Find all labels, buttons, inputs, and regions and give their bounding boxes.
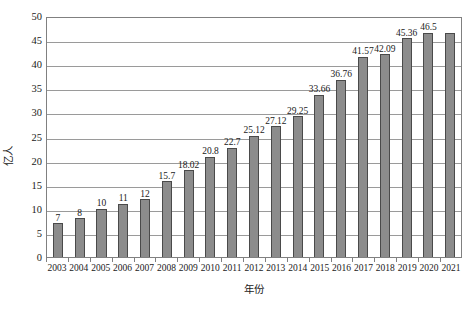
x-axis-tick-label: 2020 — [418, 263, 440, 279]
x-axis-tick — [287, 258, 288, 262]
x-axis-tick-label: 2007 — [134, 263, 156, 279]
x-axis-tick-label: 2019 — [396, 263, 418, 279]
bar-slot: 42.09 — [374, 18, 396, 257]
bar[interactable]: 22.7 — [227, 148, 237, 257]
x-tick-slot — [331, 258, 353, 262]
bar-value-label: 18.02 — [178, 161, 199, 171]
bar[interactable]: 41.57 — [358, 57, 368, 257]
bar[interactable]: 8 — [75, 218, 85, 257]
bar[interactable]: 27.12 — [271, 126, 281, 257]
bar-value-label: 41.57 — [352, 47, 373, 57]
bar-value-label: 46.5 — [420, 23, 437, 33]
bar-slot: 20.8 — [200, 18, 222, 257]
bar-slot: 36.76 — [330, 18, 352, 257]
bar-value-label: 20.8 — [202, 147, 219, 157]
x-axis-tick-label: 2006 — [112, 263, 134, 279]
bar-slot: 22.7 — [221, 18, 243, 257]
x-axis-tick — [440, 258, 441, 262]
x-axis-tick — [265, 258, 266, 262]
bar[interactable]: 25.12 — [249, 136, 259, 257]
x-tick-slot — [90, 258, 112, 262]
x-tick-slot — [221, 258, 243, 262]
x-tick-slot — [112, 258, 134, 262]
bar[interactable]: 20.8 — [205, 157, 215, 257]
bar[interactable]: 12 — [140, 199, 150, 257]
bar[interactable]: 33.66 — [314, 95, 324, 257]
x-tick-slot — [68, 258, 90, 262]
x-tick-slot — [199, 258, 221, 262]
y-axis-tick-label: 50 — [19, 12, 42, 23]
bar-slot: 15.7 — [156, 18, 178, 257]
bar[interactable]: 10 — [96, 209, 106, 257]
y-axis-tick-label: 40 — [19, 60, 42, 71]
x-axis-tick — [309, 258, 310, 262]
bar-slot: 29.25 — [287, 18, 309, 257]
bar[interactable]: 46.5 — [423, 33, 433, 257]
bar[interactable]: 42.09 — [380, 54, 390, 257]
bar-value-label: 25.12 — [243, 126, 264, 136]
x-tick-slot — [265, 258, 287, 262]
bar-slot: 12 — [134, 18, 156, 257]
bar[interactable] — [445, 33, 455, 257]
x-axis-tick-label: 2003 — [46, 263, 68, 279]
bar-slot: 27.12 — [265, 18, 287, 257]
bar-value-label: 8 — [77, 209, 82, 219]
bar-slot: 46.5 — [418, 18, 440, 257]
x-axis-tick-label: 2012 — [243, 263, 265, 279]
bar-slot: 33.66 — [309, 18, 331, 257]
y-axis-tick-label: 20 — [19, 156, 42, 167]
bar[interactable]: 11 — [118, 204, 128, 257]
bar-slot: 41.57 — [352, 18, 374, 257]
x-tick-slot — [155, 258, 177, 262]
plot-area: 7810111215.718.0220.822.725.1227.1229.25… — [46, 17, 462, 258]
x-tick-slot — [396, 258, 418, 262]
x-tick-slot — [134, 258, 156, 262]
x-axis-tick-label: 2014 — [287, 263, 309, 279]
bar-value-label: 7 — [56, 214, 61, 224]
x-tick-slot — [418, 258, 440, 262]
x-axis-tick — [243, 258, 244, 262]
x-axis-tick — [112, 258, 113, 262]
bar-value-label: 12 — [140, 190, 150, 200]
x-axis-tick-label: 2015 — [309, 263, 331, 279]
x-axis-tick — [155, 258, 156, 262]
bar-slot: 10 — [91, 18, 113, 257]
y-axis-tick-label: 45 — [19, 36, 42, 47]
x-tick-slot — [309, 258, 331, 262]
x-axis-tick — [418, 258, 419, 262]
y-axis-tick-label: 5 — [19, 229, 42, 240]
x-axis-tick-label: 2011 — [221, 263, 243, 279]
y-axis-tick-label: 10 — [19, 205, 42, 216]
bar-chart: 亿人 50454035302520151050 7810111215.718.0… — [0, 0, 468, 311]
bar-value-label: 11 — [119, 194, 128, 204]
y-axis-tick-label: 35 — [19, 84, 42, 95]
bar-slot: 11 — [112, 18, 134, 257]
x-axis-tick-label: 2009 — [177, 263, 199, 279]
bar[interactable]: 29.25 — [293, 116, 303, 257]
bar-value-label: 27.12 — [265, 117, 286, 127]
bar-value-label: 42.09 — [374, 45, 395, 55]
y-axis-tick-labels: 50454035302520151050 — [19, 17, 42, 258]
x-axis-tick — [199, 258, 200, 262]
x-axis-tick — [374, 258, 375, 262]
bar[interactable]: 36.76 — [336, 80, 346, 257]
bar[interactable]: 7 — [53, 223, 63, 257]
bar-slot: 7 — [47, 18, 69, 257]
bar-value-label: 36.76 — [331, 70, 352, 80]
bar-slot: 25.12 — [243, 18, 265, 257]
x-axis-tick — [221, 258, 222, 262]
x-axis-tick — [68, 258, 69, 262]
bar-value-label: 29.25 — [287, 107, 308, 117]
bar[interactable]: 18.02 — [184, 170, 194, 257]
x-axis-tick — [331, 258, 332, 262]
y-axis-tick-label: 15 — [19, 180, 42, 191]
x-axis-tick — [90, 258, 91, 262]
bar-slot: 8 — [69, 18, 91, 257]
x-axis-tick-label: 2008 — [155, 263, 177, 279]
x-tick-slot — [177, 258, 199, 262]
bar[interactable]: 45.36 — [402, 38, 412, 257]
bars-layer: 7810111215.718.0220.822.725.1227.1229.25… — [47, 18, 461, 257]
bar[interactable]: 15.7 — [162, 181, 172, 257]
bar-slot: 18.02 — [178, 18, 200, 257]
bar-value-label: 10 — [97, 199, 107, 209]
